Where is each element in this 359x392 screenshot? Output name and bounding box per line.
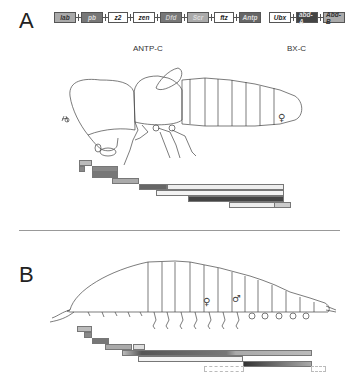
bar-b-ubx [138,356,243,362]
myriapod-drawing: ♀ ♂ [0,255,359,355]
gene-link [182,17,187,18]
antp-c-label: ANTP-C [133,44,163,53]
female-symbol: ♀ [278,112,285,123]
gene-link [155,17,160,18]
gene-link [103,17,108,18]
bx-c-gene-row: Ubx abd-A Abd-B [269,12,345,23]
gene-link [76,17,81,18]
gene-link [234,17,239,18]
bar-b-pb [84,332,92,338]
gene-link [318,17,323,18]
gene-abd-a: abd-A [296,12,318,23]
bar-b-abd-b-end [311,366,326,372]
bar-scr [112,178,139,184]
gene-link [128,17,133,18]
panel-a-letter: A [19,8,34,34]
gene-link [209,17,214,18]
gene-zen: zen [133,12,155,23]
insect-drawing: ♀ [0,60,359,220]
antp-c-gene-row: lab pb z2 zen Dfd Scr ftz Antp [54,12,261,23]
bar-b-abd-b-dotted [204,366,244,372]
gene-pb: pb [81,12,103,23]
female-symbol-b: ♀ [203,296,210,307]
bar-pb-1 [79,166,85,172]
gene-antp: Antp [239,12,261,23]
gene-scr: Scr [187,12,209,23]
gene-z2: z2 [108,12,128,23]
bar-b-abd-a [243,361,312,367]
male-symbol-b: ♂ [232,293,241,304]
gene-link [291,17,296,18]
gene-lab: lab [54,12,76,23]
panel-divider [19,230,340,231]
bx-c-label: BX-C [287,44,306,53]
bar-abd-b-end [274,202,291,208]
gene-dfd: Dfd [160,12,182,23]
gene-abd-b: Abd-B [323,12,345,23]
gene-ftz: ftz [214,12,234,23]
gene-ubx: Ubx [269,12,291,23]
